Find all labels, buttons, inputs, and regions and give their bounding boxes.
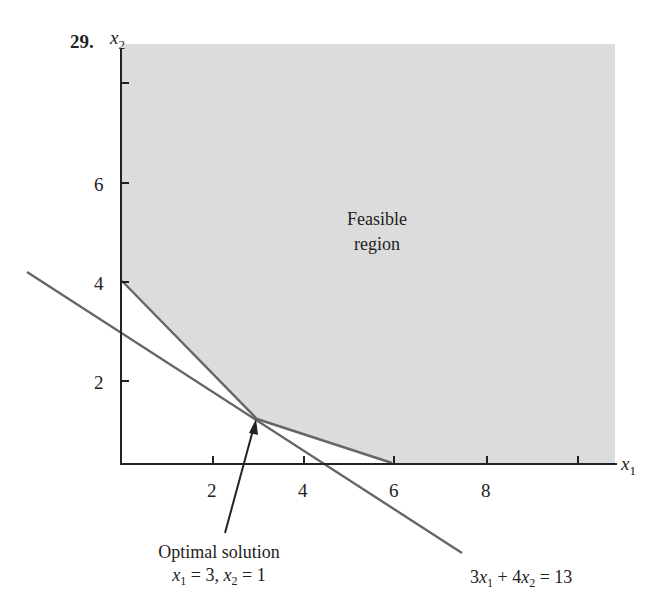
optimal-solution-values: x1 = 3, x2 = 1 <box>171 565 265 588</box>
y-tick-label-4: 4 <box>94 273 104 294</box>
objective-equation-label: 3x1 + 4x2 = 13 <box>470 567 572 590</box>
lp-chart: 6 4 2 2 4 6 8 29. x2 x1 Feasible region … <box>0 0 661 611</box>
problem-number: 29. <box>70 31 94 52</box>
optimal-arrow-icon <box>225 419 258 533</box>
feasible-region-label-line1: Feasible <box>347 209 407 229</box>
x-tick-label-2: 2 <box>207 480 217 501</box>
optimal-solution-title: Optimal solution <box>158 542 280 562</box>
y-tick-label-6: 6 <box>94 174 104 195</box>
x-tick-label-8: 8 <box>481 480 491 501</box>
x-tick-label-6: 6 <box>389 480 399 501</box>
x-axis-label: x1 <box>620 453 636 478</box>
y-tick-label-2: 2 <box>94 372 104 393</box>
x-tick-label-4: 4 <box>298 480 308 501</box>
feasible-region-label-line2: region <box>354 234 400 254</box>
y-axis-label: x2 <box>109 27 125 52</box>
